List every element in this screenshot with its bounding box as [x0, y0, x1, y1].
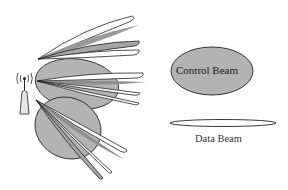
beamforming-diagram — [0, 0, 288, 190]
legend-data-beam-shape — [170, 120, 276, 127]
data-beam-group-top — [38, 16, 139, 59]
legend-data-beam-label: Data Beam — [195, 133, 242, 144]
antenna-tower-icon — [17, 73, 33, 114]
legend-control-beam-label: Control Beam — [176, 64, 238, 76]
